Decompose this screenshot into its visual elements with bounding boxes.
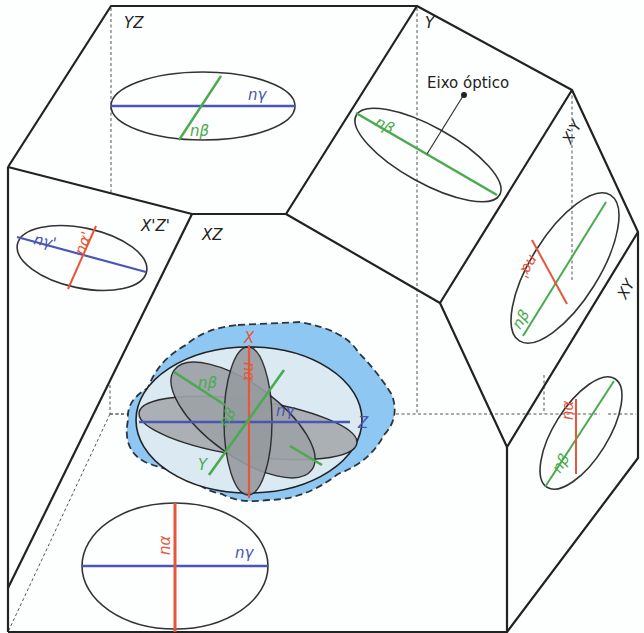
face-label-x-prime-y: X'Y — [558, 116, 586, 148]
section-x-prime-y: nα' nβ X'Y — [491, 116, 640, 359]
label-n-alpha-prime: nα' — [515, 252, 542, 281]
face-label-yz: YZ — [124, 14, 144, 32]
optic-axis-dot — [461, 92, 467, 98]
diagram-canvas: nγ nβ YZ nβ Eixo óptico Y nγ' nα' X'Z' X… — [0, 0, 644, 633]
label-n-alpha: nα — [559, 400, 577, 420]
label-n-beta: nβ — [198, 374, 218, 392]
label-n-alpha: nα — [240, 362, 258, 382]
label-n-gamma: nγ — [276, 402, 296, 420]
axis-label-z: Z — [357, 414, 369, 432]
face-label-xz: XZ — [201, 226, 223, 244]
label-n-gamma: nγ — [235, 544, 255, 562]
hidden-edges — [8, 8, 636, 632]
section-xy: nα nβ XY — [524, 275, 639, 502]
label-n-beta: nβ — [190, 122, 210, 140]
section-xz-bottom: nγ nα — [82, 503, 268, 632]
biaxial-indicatrix-diagram: nγ nβ YZ nβ Eixo óptico Y nγ' nα' X'Z' X… — [0, 0, 644, 633]
optic-axis-label: Eixo óptico — [427, 74, 509, 92]
label-n-alpha: nα — [156, 535, 174, 555]
face-label-y: Y — [425, 14, 436, 32]
section-yz: nγ nβ YZ — [111, 14, 295, 140]
label-n-beta: nβ — [548, 450, 574, 476]
axis-label-x: X — [243, 329, 255, 347]
section-x-prime-z-prime: nγ' nα' X'Z' XZ — [11, 215, 223, 301]
label-n-gamma: nγ — [248, 86, 268, 104]
indicatrix: nγ nβ nα nβ X Z Y — [127, 322, 395, 501]
crystal-edges — [8, 6, 638, 632]
label-n-gamma-prime: nγ' — [32, 230, 58, 252]
face-label-x-prime-z-prime: X'Z' — [140, 217, 170, 235]
face-label-xy: XY — [613, 275, 639, 303]
